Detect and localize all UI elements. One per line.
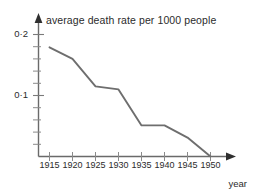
chart-container: average death rate per 1000 people 0·2 0… (0, 0, 255, 196)
y-tick-label-0.1: 0·1 (6, 89, 28, 100)
x-axis-label: year (229, 178, 247, 189)
y-tick-label-0.2: 0·2 (6, 28, 28, 39)
chart-title: average death rate per 1000 people (46, 14, 216, 26)
x-axis-arrow-icon (226, 153, 236, 161)
data-series-line (50, 47, 211, 156)
x-tick-label-1950: 1950 (197, 160, 225, 170)
y-axis-arrow-icon (35, 13, 43, 23)
